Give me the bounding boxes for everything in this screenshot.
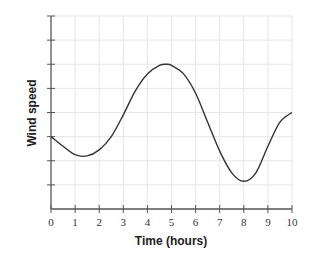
wind-speed-chart: 012345678910 Time (hours) Wind speed: [0, 0, 313, 259]
x-axis-title: Time (hours): [135, 234, 207, 248]
x-tick-label: 5: [169, 216, 175, 228]
x-tick-label: 2: [96, 216, 102, 228]
y-axis-title: Wind speed: [25, 79, 39, 146]
grid-lines: [51, 16, 292, 209]
x-tick-label: 3: [121, 216, 127, 228]
x-tick-label: 6: [193, 216, 199, 228]
x-tick-label: 7: [217, 216, 223, 228]
x-tick-label: 9: [265, 216, 271, 228]
x-tick-label: 0: [48, 216, 54, 228]
x-tick-label: 1: [72, 216, 78, 228]
x-tick-label: 10: [287, 216, 299, 228]
x-tick-label: 8: [241, 216, 247, 228]
x-tick-label: 4: [145, 216, 151, 228]
